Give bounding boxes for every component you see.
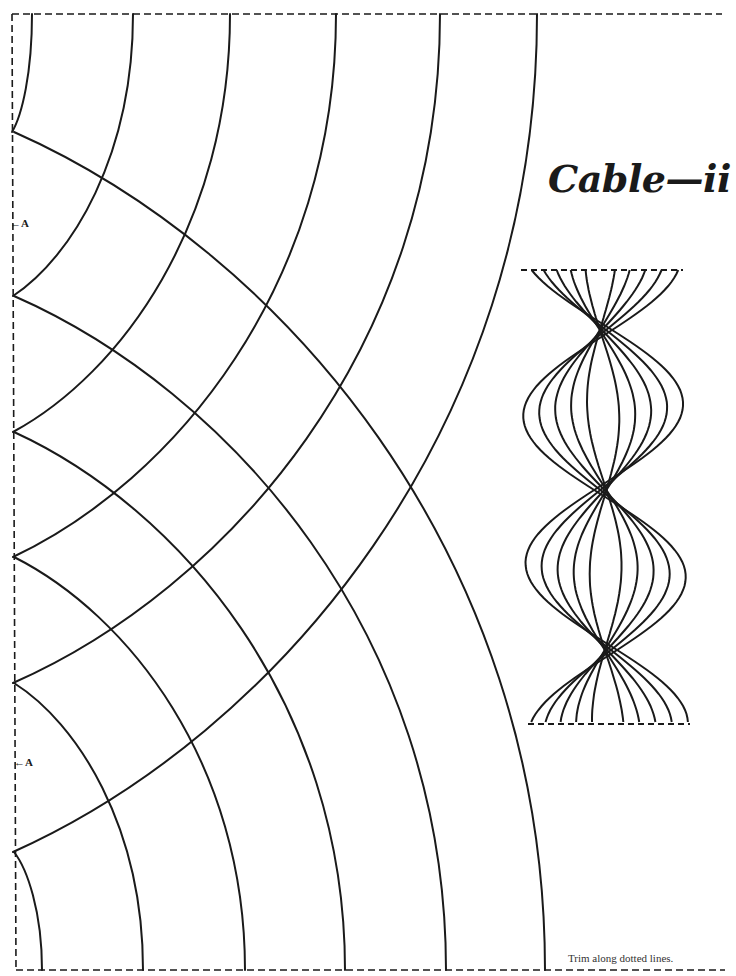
pattern-page: Cable—ii ←A ←A Trim along dotted lines. (0, 0, 736, 976)
cable-pattern-drawing (0, 0, 736, 976)
cable-arcs-full-size (12, 14, 545, 970)
trim-instruction: Trim along dotted lines. (568, 952, 673, 964)
pattern-title: Cable—ii (548, 156, 731, 201)
cable-arc-from-bottom (14, 296, 446, 970)
cable-arc-from-top (12, 14, 32, 132)
cable-arc-from-top (13, 14, 440, 683)
cable-arc-from-top (13, 14, 230, 432)
cable-arc-from-bottom (14, 132, 545, 970)
cable-arc-from-top (13, 14, 336, 557)
cable-preview-miniature (521, 270, 690, 724)
cable-arc-from-bottom (14, 852, 42, 970)
cable-arc-from-bottom (14, 432, 345, 970)
alignment-marker-a-bottom: ←A (14, 756, 33, 768)
cable-arc-from-bottom (14, 683, 143, 970)
cable-arc-from-top (13, 14, 537, 852)
cable-arc-from-bottom (14, 557, 245, 970)
trim-line-left (12, 14, 16, 970)
alignment-marker-a-top: ←A (10, 217, 29, 229)
